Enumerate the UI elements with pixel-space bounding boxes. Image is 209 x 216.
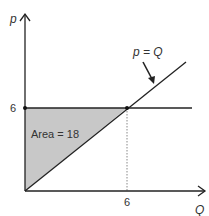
y-axis-label: p [9,12,17,26]
area-label: Area = 18 [31,128,79,140]
pointer-arrowhead-icon [148,76,155,84]
point-intersection [125,106,129,110]
pointer-arrow-line [143,62,152,79]
diagram-canvas: p Q 6 6 p = Q Area = 18 [0,0,209,216]
y-tick-6: 6 [10,102,16,114]
x-tick-6: 6 [124,196,130,208]
x-axis-label: Q [195,203,204,216]
curve-label: p = Q [132,45,163,59]
point-y6 [23,106,27,110]
